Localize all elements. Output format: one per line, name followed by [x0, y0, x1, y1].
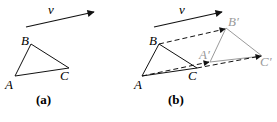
- point-b-label: B: [21, 33, 29, 48]
- translation-arrow-a: [142, 62, 209, 76]
- panel-b: v B A C A′ B′ C′ (b): [133, 2, 272, 107]
- panel-a: v B A C (a): [4, 2, 94, 107]
- vector-v-label: v: [48, 2, 54, 17]
- point-b-prime-label: B′: [228, 14, 239, 29]
- point-a-prime-label: A′: [198, 47, 210, 62]
- caption-a: (a): [36, 92, 51, 107]
- point-c-label: C: [188, 68, 197, 83]
- translation-arrow-b: [159, 29, 225, 44]
- point-a-label: A: [4, 77, 13, 92]
- point-c-prime-label: C′: [260, 54, 272, 69]
- translation-diagram: v B A C (a) v B A C A′ B′ C′ (b): [0, 0, 277, 122]
- point-b-label: B: [149, 33, 157, 48]
- caption-b: (b): [168, 92, 184, 107]
- point-c-label: C: [60, 68, 69, 83]
- vector-v-arrow: [26, 12, 94, 27]
- vector-v-label: v: [179, 2, 185, 17]
- point-a-label: A: [133, 77, 142, 92]
- vector-v-arrow: [154, 12, 222, 27]
